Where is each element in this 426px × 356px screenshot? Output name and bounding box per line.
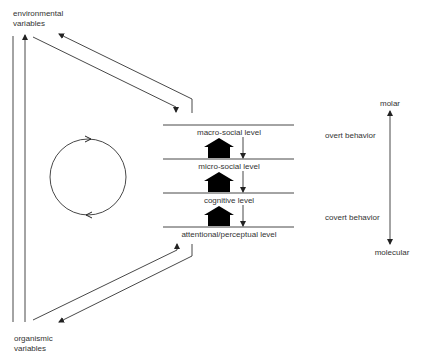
organismic-label-line2: variables (14, 344, 53, 354)
levels-to-env-arrow (59, 34, 192, 113)
level-label-macro-social: macro-social level (197, 128, 261, 138)
level-label-micro-social: micro-social level (198, 162, 259, 172)
environmental-variables-label: environmental variables (13, 9, 63, 29)
level-label-cognitive: cognitive level (204, 196, 254, 206)
organismic-variables-label: organismic variables (14, 334, 53, 354)
levels-to-org-arrow (59, 244, 192, 322)
environmental-label-line1: environmental (13, 9, 63, 19)
molecular-label: molecular (375, 248, 410, 258)
molar-label: molar (380, 99, 400, 109)
diagram-canvas (0, 0, 426, 356)
thick-up-arrow-1 (204, 138, 234, 158)
covert-behavior-label: covert behavior (325, 213, 380, 223)
level-label-attentional-perceptual: attentional/perceptual level (181, 230, 276, 240)
overt-behavior-label: overt behavior (325, 131, 376, 141)
organismic-label-line1: organismic (14, 334, 53, 344)
env-to-levels-arrow (33, 37, 176, 112)
environmental-label-line2: variables (13, 19, 63, 29)
thick-up-arrow-3 (204, 206, 234, 226)
org-to-levels-arrow (33, 244, 177, 320)
thick-up-arrow-2 (204, 172, 234, 192)
feedback-cycle-circle (50, 139, 126, 215)
